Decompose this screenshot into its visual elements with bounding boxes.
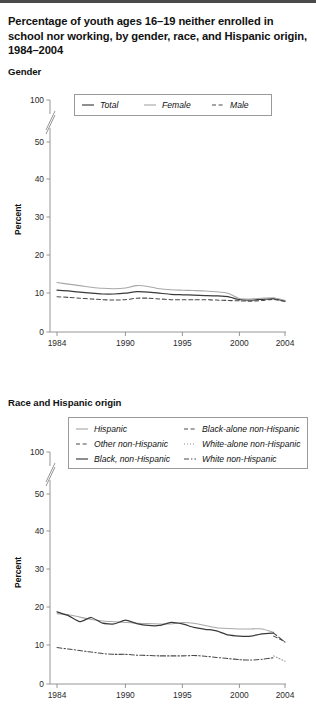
y-tick-label: 50 [35, 489, 45, 499]
chart-race-hispanic: 1005040302010019841990199520002004 [0, 0, 316, 712]
figure-page: Percentage of youth ages 16–19 neither e… [0, 0, 316, 712]
x-tick-label: 2004 [276, 690, 295, 700]
x-tick-label: 1984 [48, 690, 67, 700]
y-tick-label: 40 [35, 526, 45, 536]
y-tick-label: 10 [35, 640, 45, 650]
y-tick-label: 30 [35, 564, 45, 574]
series-line [274, 636, 285, 641]
x-tick-label: 1995 [173, 690, 192, 700]
y-tick-label: 20 [35, 602, 45, 612]
x-tick-label: 2000 [230, 690, 249, 700]
series-line [274, 656, 285, 661]
series-line [57, 612, 274, 636]
series-line [57, 614, 274, 633]
y-tick-label: 0 [39, 679, 44, 689]
x-tick-label: 1990 [116, 690, 135, 700]
series-line [57, 648, 274, 661]
y-tick-label: 100 [30, 447, 44, 457]
